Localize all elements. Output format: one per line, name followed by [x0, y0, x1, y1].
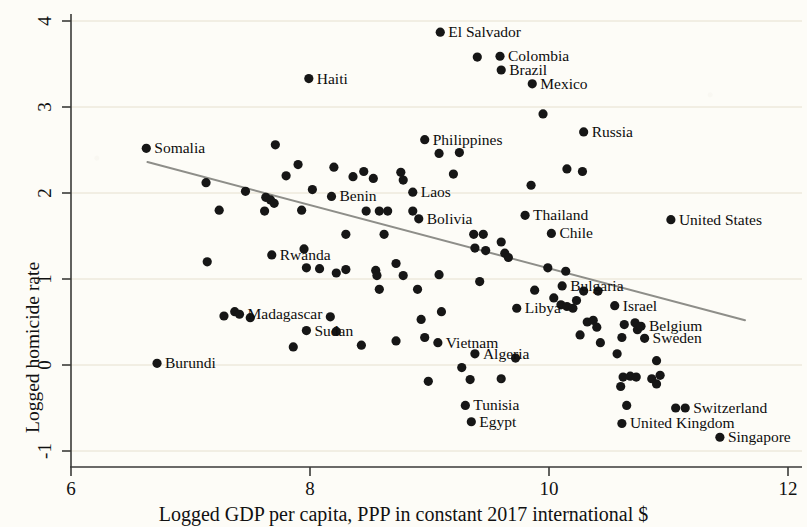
data-point-labeled: [302, 326, 311, 335]
data-point: [219, 311, 228, 320]
data-point-labeled: [235, 310, 244, 319]
data-point: [357, 341, 366, 350]
data-point: [348, 172, 357, 181]
data-point-labeled: [414, 214, 423, 223]
point-label-algeria: Algeria: [483, 346, 529, 362]
data-point: [616, 382, 625, 391]
data-point: [241, 187, 250, 196]
point-label-el-salvador: El Salvador: [448, 24, 521, 40]
gridlines: [71, 21, 802, 451]
data-point: [270, 199, 279, 208]
point-label-libya: Libya: [525, 300, 561, 316]
data-point: [329, 163, 338, 172]
data-point: [561, 267, 570, 276]
data-point: [578, 167, 587, 176]
y-tick-label: 3: [34, 87, 56, 127]
point-label-mexico: Mexico: [540, 76, 587, 92]
data-point-labeled: [579, 127, 588, 136]
data-point: [656, 371, 665, 380]
data-point: [469, 230, 478, 239]
data-point: [203, 257, 212, 266]
data-point: [497, 237, 506, 246]
data-point: [434, 270, 443, 279]
data-point: [562, 164, 571, 173]
data-point: [362, 206, 371, 215]
data-point: [282, 171, 291, 180]
data-point: [671, 403, 680, 412]
point-label-switzerland: Switzerland: [693, 400, 767, 416]
point-label-united-kingdom: United Kingdom: [630, 415, 735, 431]
data-point: [215, 206, 224, 215]
data-point: [596, 338, 605, 347]
data-point-labeled: [495, 52, 504, 61]
data-point: [379, 230, 388, 239]
data-point-labeled: [715, 433, 724, 442]
data-point: [289, 342, 298, 351]
data-point-labeled: [666, 215, 675, 224]
data-point-labeled: [267, 250, 276, 259]
point-label-madagascar: Madagascar: [247, 306, 322, 322]
data-point: [652, 356, 661, 365]
data-point: [417, 315, 426, 324]
data-point: [297, 206, 306, 215]
data-point-labeled: [497, 65, 506, 74]
data-point-labeled: [461, 401, 470, 410]
data-point-labeled: [521, 211, 530, 220]
data-point-labeled: [558, 281, 567, 290]
plot-canvas: [0, 0, 807, 527]
data-point: [375, 206, 384, 215]
point-label-benin: Benin: [340, 188, 377, 204]
data-point-labeled: [420, 135, 429, 144]
x-axis-title: Logged GDP per capita, PPP in constant 2…: [0, 503, 807, 526]
y-axis-title: Logged homicide rate: [22, 262, 44, 433]
data-point-labeled: [636, 322, 645, 331]
data-point-labeled: [528, 79, 537, 88]
data-point: [538, 109, 547, 118]
data-point: [543, 263, 552, 272]
data-point: [315, 264, 324, 273]
point-label-tunisia: Tunisia: [473, 397, 519, 413]
data-point: [592, 323, 601, 332]
scatter-plot-figure: -101234681012 El SalvadorColombiaBrazilM…: [0, 0, 807, 527]
data-point: [399, 271, 408, 280]
data-point-labeled: [142, 144, 151, 153]
point-label-russia: Russia: [592, 124, 633, 140]
data-point: [617, 333, 626, 342]
point-label-egypt: Egypt: [479, 414, 516, 430]
x-tick-label: 10: [529, 478, 569, 500]
point-label-laos: Laos: [421, 184, 451, 200]
axis-lines: [70, 14, 802, 467]
data-point: [424, 377, 433, 386]
data-point: [302, 263, 311, 272]
data-point: [434, 149, 443, 158]
data-point-labeled: [681, 403, 690, 412]
data-point-labeled: [640, 334, 649, 343]
data-point: [437, 307, 446, 316]
data-point-labeled: [327, 192, 336, 201]
point-label-singapore: Singapore: [728, 429, 791, 445]
data-point: [479, 230, 488, 239]
point-label-bulgaria: Bulgaria: [570, 278, 623, 294]
data-point-labeled: [610, 301, 619, 310]
data-point: [620, 320, 629, 329]
data-point: [530, 286, 539, 295]
data-point-labeled: [433, 338, 442, 347]
data-point: [375, 285, 384, 294]
data-point: [332, 268, 341, 277]
data-point-labeled: [547, 229, 556, 238]
data-point-labeled: [408, 188, 417, 197]
data-point-labeled: [152, 359, 161, 368]
data-point: [622, 401, 631, 410]
data-point: [359, 167, 368, 176]
data-point: [575, 330, 584, 339]
y-tick-label: 2: [34, 173, 56, 213]
point-label-thailand: Thailand: [533, 207, 588, 223]
x-tick-label: 8: [290, 478, 330, 500]
data-point: [341, 230, 350, 239]
y-tick-label: -1: [34, 431, 56, 471]
data-point: [613, 349, 622, 358]
data-points: [142, 28, 725, 442]
data-point-labeled: [304, 74, 313, 83]
data-point: [470, 243, 479, 252]
data-point-labeled: [467, 417, 476, 426]
